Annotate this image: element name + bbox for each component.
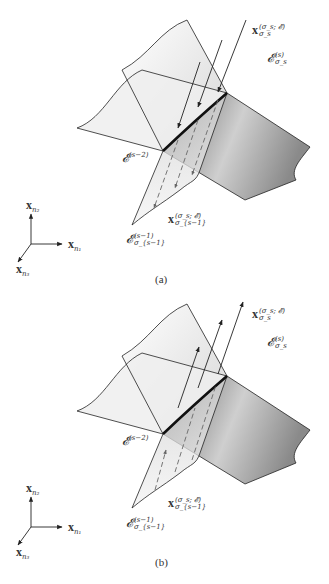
axis-label-n1: xn₁ xyxy=(68,521,81,536)
caption-a: (a) xyxy=(155,273,167,285)
label-e-s-minus-2: 𝓔(s−2) xyxy=(122,152,148,164)
label-x-sigma-s: x(σ_s; 𝓔)σ_s xyxy=(252,24,285,38)
label-x-sigma-s-minus-1: x(σ_s; 𝓔)σ_{s−1} xyxy=(168,497,206,511)
axis-triad-b xyxy=(18,497,62,545)
label-x-sigma-s: x(σ_s; 𝓔)σ_s xyxy=(252,308,285,322)
axis-label-n1: xn₁ xyxy=(68,238,81,253)
axis-label-n3: xn₃ xyxy=(16,546,29,561)
label-e-sigma-s: 𝓔(s)σ_s xyxy=(267,336,287,350)
panel-b: x(σ_s; 𝓔)σ_s 𝓔(s)σ_s 𝓔(s−2) x(σ_s; 𝓔)σ_{… xyxy=(0,290,329,584)
surface-diagram-a xyxy=(0,0,329,292)
label-e-sigma-s: 𝓔(s)σ_s xyxy=(267,52,287,66)
panel-a: x(σ_s; 𝓔)σ_s 𝓔(s)σ_s 𝓔(s−2) x(σ_s; 𝓔)σ_{… xyxy=(0,0,329,292)
axis-label-n3: xn₃ xyxy=(16,263,29,278)
axis-label-n2: xn₂ xyxy=(26,199,39,214)
label-e-s-minus-2: 𝓔(s−2) xyxy=(122,435,148,447)
axis-label-n2: xn₂ xyxy=(26,482,39,497)
label-x-sigma-s-minus-1: x(σ_s; 𝓔)σ_{s−1} xyxy=(168,213,206,227)
caption-b: (b) xyxy=(155,556,168,568)
label-e-sigma-s-minus-1: 𝓔(s−1)σ_{s−1} xyxy=(126,517,165,531)
label-e-sigma-s-minus-1: 𝓔(s−1)σ_{s−1} xyxy=(126,233,165,247)
axis-triad-a xyxy=(18,214,62,262)
